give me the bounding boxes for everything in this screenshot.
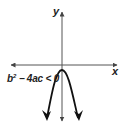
y-axis-label: y	[53, 6, 59, 17]
discriminant-label: b2 − 4ac < 0	[7, 74, 59, 84]
parabola-diagram	[0, 0, 122, 133]
x-axis-label: x	[112, 66, 118, 77]
left-arm-arrowhead-icon	[42, 110, 51, 121]
discriminant-rest: − 4ac < 0	[16, 73, 59, 84]
right-arm-arrowhead-icon	[74, 110, 83, 121]
discriminant-exponent: 2	[13, 73, 16, 79]
